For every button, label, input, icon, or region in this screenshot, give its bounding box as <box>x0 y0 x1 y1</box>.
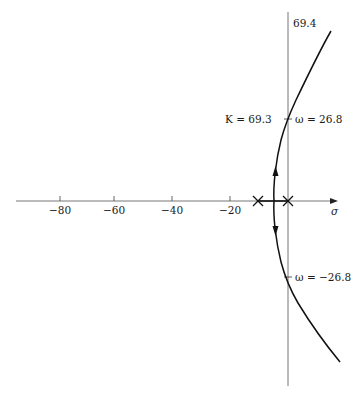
tick-label-minus60: −60 <box>103 204 125 216</box>
upper-freq-annotation: ω = 26.8 <box>295 113 342 125</box>
tick-label-minus20: −20 <box>219 204 241 216</box>
tick-label-minus80: −80 <box>49 204 71 216</box>
imag-top-label: 69.4 <box>293 17 317 29</box>
downward-arrow-icon <box>273 226 279 236</box>
root-locus-plot: −80 −60 −40 −20 σ 69.4 K = 69.3 ω = 26.8… <box>0 0 362 394</box>
tick-label-minus40: −40 <box>161 204 183 216</box>
sigma-axis-label: σ <box>331 205 339 217</box>
real-axis-ticks <box>60 196 230 201</box>
upward-arrow-icon <box>273 166 279 176</box>
lower-freq-annotation: ω = −26.8 <box>295 271 351 283</box>
gain-annotation: K = 69.3 <box>225 113 272 125</box>
real-axis-arrow-icon <box>330 198 338 204</box>
